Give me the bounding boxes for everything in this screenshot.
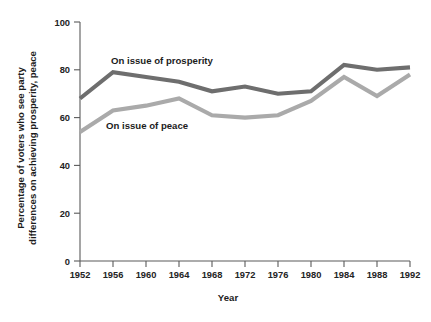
y-tick-label-40: 40 xyxy=(60,161,70,171)
x-tick-label-1952: 1952 xyxy=(70,270,91,280)
y-tick-label-60: 60 xyxy=(60,113,70,123)
x-tick-label-1980: 1980 xyxy=(301,270,322,280)
x-axis-ticks xyxy=(80,261,410,267)
x-tick-label-1972: 1972 xyxy=(235,270,256,280)
y-axis-ticks xyxy=(74,22,80,261)
x-tick-label-1960: 1960 xyxy=(136,270,157,280)
y-tick-label-20: 20 xyxy=(60,209,70,219)
y-tick-label-100: 100 xyxy=(54,18,70,28)
x-axis-title: Year xyxy=(218,292,239,303)
x-tick-label-1956: 1956 xyxy=(103,270,124,280)
x-tick-label-1964: 1964 xyxy=(169,270,191,280)
x-tick-label-1976: 1976 xyxy=(268,270,289,280)
y-axis-title-line2: differences on achieving prosperity, pea… xyxy=(27,51,38,245)
series-line-prosperity xyxy=(80,65,410,98)
x-tick-label-1992: 1992 xyxy=(400,270,421,280)
series-annotation-peace: On issue of peace xyxy=(106,120,188,131)
series-annotation-prosperity: On issue of prosperity xyxy=(111,55,213,66)
chart-page: Percentage of voters who see party diffe… xyxy=(0,0,431,322)
y-axis-title-line1: Percentage of voters who see party xyxy=(15,67,26,229)
x-tick-label-1988: 1988 xyxy=(367,270,388,280)
line-chart: Percentage of voters who see party diffe… xyxy=(0,0,431,322)
y-tick-label-0: 0 xyxy=(65,257,70,267)
y-tick-label-80: 80 xyxy=(60,65,70,75)
x-tick-label-1984: 1984 xyxy=(334,270,356,280)
x-tick-label-1968: 1968 xyxy=(202,270,223,280)
